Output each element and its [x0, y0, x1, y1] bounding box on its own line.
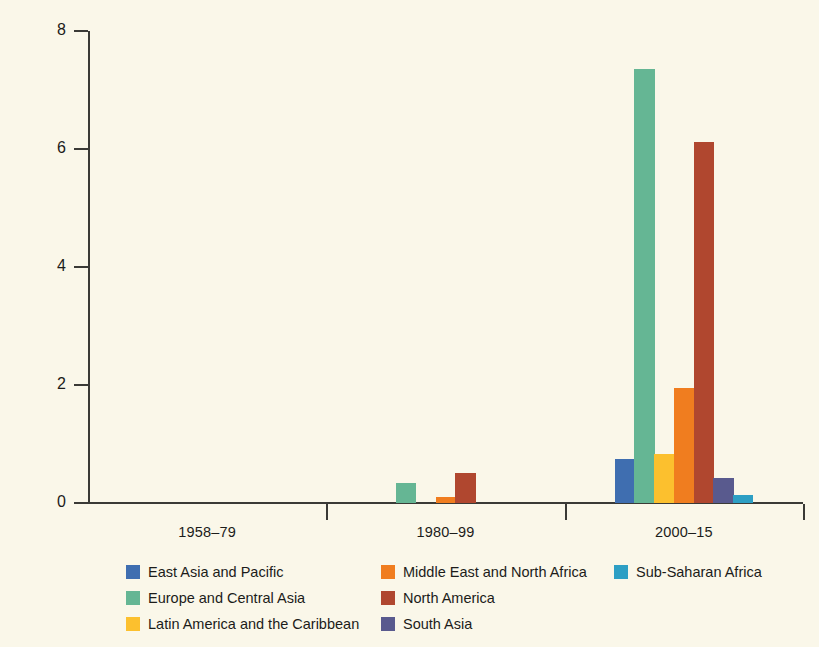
category-separator: [803, 504, 805, 520]
legend-column: East Asia and PacificEurope and Central …: [126, 560, 388, 638]
category-separator: [326, 504, 328, 520]
chart-legend: East Asia and PacificEurope and Central …: [126, 560, 786, 640]
legend-item[interactable]: North America: [381, 586, 631, 610]
bar: [713, 478, 733, 503]
legend-swatch-icon: [381, 617, 395, 631]
legend-label: East Asia and Pacific: [148, 565, 283, 580]
legend-item[interactable]: Europe and Central Asia: [126, 586, 388, 610]
legend-column: Sub-Saharan Africa: [614, 560, 794, 586]
bar: [634, 69, 654, 503]
legend-label: Middle East and North Africa: [403, 565, 587, 580]
bar: [436, 497, 456, 503]
legend-label: Sub-Saharan Africa: [636, 565, 762, 580]
legend-item[interactable]: South Asia: [381, 612, 631, 636]
legend-swatch-icon: [126, 617, 140, 631]
x-axis-label: 1958–79: [88, 524, 326, 540]
x-axis-label: 2000–15: [565, 524, 803, 540]
y-axis-tick-label: 4: [40, 258, 66, 274]
y-axis-tick: [74, 266, 88, 268]
bars-layer: [88, 31, 803, 503]
x-axis-label: 1980–99: [326, 524, 564, 540]
legend-column: Middle East and North AfricaNorth Americ…: [381, 560, 631, 638]
legend-item[interactable]: Middle East and North Africa: [381, 560, 631, 584]
legend-swatch-icon: [614, 565, 628, 579]
legend-label: Latin America and the Caribbean: [148, 617, 359, 632]
y-axis-tick-label: 8: [40, 22, 66, 38]
y-axis-tick-label: 2: [40, 376, 66, 392]
legend-item[interactable]: Latin America and the Caribbean: [126, 612, 388, 636]
legend-swatch-icon: [381, 565, 395, 579]
legend-swatch-icon: [126, 591, 140, 605]
legend-swatch-icon: [126, 565, 140, 579]
bar: [396, 483, 416, 503]
bar: [733, 495, 753, 503]
legend-item[interactable]: East Asia and Pacific: [126, 560, 388, 584]
legend-swatch-icon: [381, 591, 395, 605]
y-axis-tick: [74, 148, 88, 150]
y-axis-tick: [74, 384, 88, 386]
bar: [615, 459, 635, 503]
legend-label: South Asia: [403, 617, 472, 632]
legend-label: North America: [403, 591, 495, 606]
y-axis-tick-label: 0: [40, 494, 66, 510]
bar: [455, 473, 475, 503]
category-separator: [565, 504, 567, 520]
legend-label: Europe and Central Asia: [148, 591, 305, 606]
y-axis-tick-label: 6: [40, 140, 66, 156]
bar: [654, 454, 674, 503]
bar-chart-figure: 02468 1958–791980–992000–15 East Asia an…: [0, 0, 819, 647]
legend-item[interactable]: Sub-Saharan Africa: [614, 560, 794, 584]
y-axis-tick: [74, 30, 88, 32]
y-axis-tick: [74, 502, 88, 504]
bar: [674, 388, 694, 503]
bar: [694, 142, 714, 503]
